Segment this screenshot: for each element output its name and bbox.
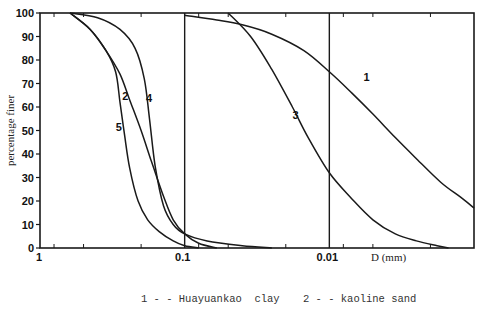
series-label-3: 3: [292, 109, 298, 121]
y-tick-label: 70: [22, 78, 34, 90]
axis-ticks: [36, 13, 430, 248]
y-tick-label: 100: [16, 7, 34, 19]
y-tick-label: 20: [22, 195, 34, 207]
decade-gridlines: [185, 13, 330, 248]
y-tick-label: 80: [22, 54, 34, 66]
y-tick-label: 40: [22, 148, 34, 160]
legend: 1 - - Huayuankao clay2 - - kaoline sand …: [141, 262, 442, 317]
series-label-1: 1: [364, 71, 370, 83]
series-line-4: [70, 13, 272, 248]
y-tick-label: 0: [28, 242, 34, 254]
y-tick-label: 30: [22, 172, 34, 184]
y-tick-label: 50: [22, 125, 34, 137]
series-label-4: 4: [146, 92, 153, 104]
y-tick-label: 60: [22, 101, 34, 113]
series-line-3: [228, 13, 448, 248]
legend-row: 1 - - Huayuankao clay2 - - kaoline sand: [141, 292, 442, 307]
y-axis-title: percentage finer: [4, 95, 16, 166]
legend-item-2: 2 - - kaoline sand: [303, 293, 416, 305]
x-tick-label: 1: [36, 251, 42, 263]
series-label-2: 2: [122, 90, 128, 102]
legend-item-1: 1 - - Huayuankao clay: [141, 292, 303, 307]
y-tick-label: 90: [22, 31, 34, 43]
series-label-5: 5: [116, 121, 122, 133]
y-tick-label: 10: [22, 219, 34, 231]
series-lines: 12345: [70, 13, 474, 248]
